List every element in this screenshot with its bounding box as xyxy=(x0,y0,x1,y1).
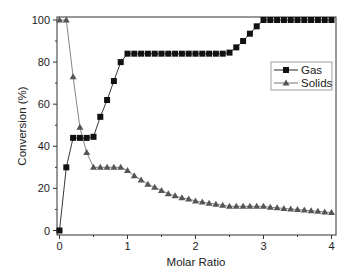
triangle-marker-icon xyxy=(83,149,90,155)
triangle-marker-icon xyxy=(158,187,165,193)
square-marker-icon xyxy=(131,51,137,57)
square-marker-icon xyxy=(193,51,199,57)
square-marker-icon xyxy=(213,51,219,57)
square-marker-icon xyxy=(111,78,117,84)
square-marker-icon xyxy=(281,17,287,23)
square-marker-icon xyxy=(254,23,260,29)
square-marker-icon xyxy=(283,67,289,73)
square-marker-icon xyxy=(63,164,69,170)
x-tick-label: 4 xyxy=(328,240,334,252)
square-marker-icon xyxy=(152,51,158,57)
triangle-marker-icon xyxy=(131,172,138,178)
square-marker-icon xyxy=(267,17,273,23)
square-marker-icon xyxy=(295,17,301,23)
square-marker-icon xyxy=(247,31,253,37)
square-marker-icon xyxy=(125,51,131,57)
square-marker-icon xyxy=(322,17,328,23)
triangle-marker-icon xyxy=(233,203,240,209)
series-layer xyxy=(56,17,335,234)
triangle-marker-icon xyxy=(138,176,145,182)
square-marker-icon xyxy=(240,38,246,44)
legend-label-solids: Solids xyxy=(301,77,333,89)
x-axis-title: Molar Ratio xyxy=(167,256,226,268)
square-marker-icon xyxy=(104,97,110,103)
x-tick-label: 2 xyxy=(192,240,198,252)
square-marker-icon xyxy=(57,228,63,234)
square-marker-icon xyxy=(77,135,83,141)
square-marker-icon xyxy=(186,51,192,57)
square-marker-icon xyxy=(165,51,171,57)
legend-label-gas: Gas xyxy=(301,64,322,76)
square-marker-icon xyxy=(172,51,178,57)
square-marker-icon xyxy=(70,135,76,141)
legend: Gas Solids xyxy=(271,62,333,90)
triangle-marker-icon xyxy=(76,124,83,130)
y-axis-title: Conversion (%) xyxy=(16,86,28,165)
triangle-marker-icon xyxy=(124,167,131,173)
y-tick-label: 20 xyxy=(38,182,50,194)
y-tick-label: 80 xyxy=(38,56,50,68)
square-marker-icon xyxy=(91,134,97,140)
square-marker-icon xyxy=(288,17,294,23)
triangle-marker-icon xyxy=(70,73,77,79)
conversion-vs-molar-ratio-chart: 020406080100 01234 Molar Ratio Conversio… xyxy=(0,0,356,280)
square-marker-icon xyxy=(118,59,124,65)
y-tick-label: 100 xyxy=(32,14,50,26)
square-marker-icon xyxy=(227,50,233,56)
square-marker-icon xyxy=(233,44,239,50)
square-marker-icon xyxy=(138,51,144,57)
square-marker-icon xyxy=(84,135,90,141)
y-tick-label: 40 xyxy=(38,140,50,152)
x-tick-label: 3 xyxy=(260,240,266,252)
triangle-marker-icon xyxy=(165,190,172,196)
square-marker-icon xyxy=(179,51,185,57)
square-marker-icon xyxy=(301,17,307,23)
square-marker-icon xyxy=(220,51,226,57)
square-marker-icon xyxy=(145,51,151,57)
square-marker-icon xyxy=(274,17,280,23)
square-marker-icon xyxy=(159,51,165,57)
square-marker-icon xyxy=(315,17,321,23)
triangle-marker-icon xyxy=(240,203,247,209)
x-tick-label: 1 xyxy=(124,240,130,252)
square-marker-icon xyxy=(97,114,103,120)
y-tick-label: 60 xyxy=(38,98,50,110)
x-tick-label: 0 xyxy=(56,240,62,252)
y-tick-label: 0 xyxy=(44,225,50,237)
square-marker-icon xyxy=(329,17,335,23)
square-marker-icon xyxy=(308,17,314,23)
triangle-marker-icon xyxy=(151,184,158,190)
triangle-marker-icon xyxy=(246,203,253,209)
y-axis: 020406080100 xyxy=(32,14,57,237)
square-marker-icon xyxy=(261,17,267,23)
square-marker-icon xyxy=(199,51,205,57)
triangle-marker-icon xyxy=(260,203,267,209)
triangle-marker-icon xyxy=(144,181,151,187)
square-marker-icon xyxy=(206,51,212,57)
triangle-marker-icon xyxy=(253,203,260,209)
x-axis: 01234 xyxy=(56,235,334,252)
